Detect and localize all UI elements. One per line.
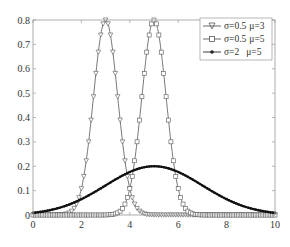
legend-label-1: σ=0.5μ=3 [224,21,265,31]
y-tick-label: 0.1 [18,185,31,196]
y-tick-label: 0.3 [18,136,31,147]
y-tick-label: 0.5 [18,88,31,99]
series-line [33,166,275,213]
gaussian-chart: 024681000.10.20.30.40.50.60.70.8 σ=0.5μ=… [0,0,290,247]
x-tick-label: 8 [224,219,229,230]
y-tick-label: 0.7 [18,39,31,50]
legend: σ=0.5μ=3 σ=0.5μ=5 σ=2μ=5 [200,18,272,60]
x-tick-label: 10 [270,219,280,230]
chart-svg: 024681000.10.20.30.40.50.60.70.8 σ=0.5μ=… [0,0,290,247]
x-tick-label: 4 [127,219,132,230]
x-tick-label: 6 [176,219,181,230]
y-tick-label: 0 [25,210,30,221]
legend-label-2: σ=0.5μ=5 [224,34,265,44]
dot-icon [210,50,214,54]
y-tick-label: 0.2 [18,161,31,172]
square-icon [210,37,215,42]
x-tick-label: 0 [31,219,36,230]
x-tick-label: 2 [79,219,84,230]
y-tick-label: 0.6 [18,63,31,74]
y-tick-label: 0.4 [18,112,31,123]
y-tick-label: 0.8 [18,15,31,26]
